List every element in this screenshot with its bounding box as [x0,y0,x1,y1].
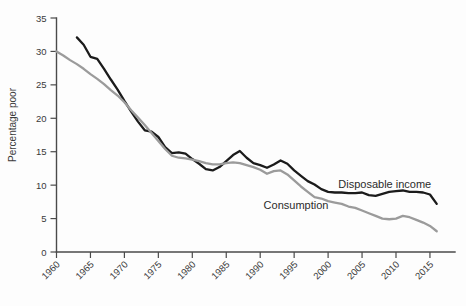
y-tick-label: 5 [41,213,46,224]
poverty-line-chart: 0510152025303519601965197019751980198519… [0,0,466,306]
y-tick-label: 35 [36,13,47,24]
x-tick-label: 1960 [39,259,62,282]
series-group [57,37,437,231]
y-tick-label: 30 [36,46,47,57]
x-tick-label: 1975 [141,259,164,282]
y-tick-label: 15 [36,146,47,157]
series-line-consumption [57,51,437,231]
y-tick-label: 20 [36,113,47,124]
y-axis-title-group: Percentage poor [7,87,18,162]
x-tick-label: 2015 [413,259,436,282]
series-label-disposable-income: Disposable income [338,178,431,190]
x-tick-label: 1980 [175,259,198,282]
figure-container: 0510152025303519601965197019751980198519… [0,0,466,306]
series-label-consumption: Consumption [264,199,329,211]
x-tick-label: 2000 [311,259,334,282]
axes-group: 0510152025303519601965197019751980198519… [36,13,455,282]
y-tick-label: 25 [36,79,47,90]
y-axis-title: Percentage poor [7,87,18,162]
x-tick-label: 2005 [345,259,368,282]
x-tick-label: 2010 [379,259,402,282]
x-tick-label: 1965 [73,259,96,282]
x-tick-label: 1995 [277,259,300,282]
y-tick-label: 10 [36,180,47,191]
x-tick-label: 1985 [209,259,232,282]
x-tick-label: 1970 [107,259,130,282]
x-tick-label: 1990 [243,259,266,282]
y-tick-label: 0 [41,247,46,258]
